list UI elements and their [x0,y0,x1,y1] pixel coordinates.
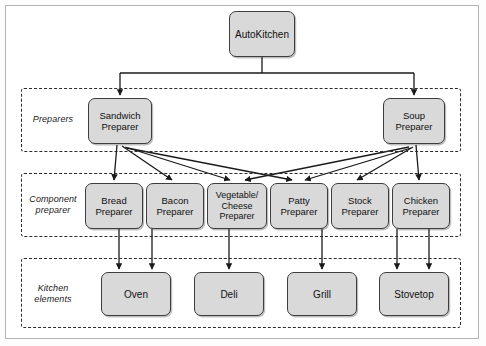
node-soup-preparer[interactable]: Soup Preparer [383,98,445,144]
band-label-line-1: Component [20,194,86,205]
node-autokitchen[interactable]: AutoKitchen [229,11,295,57]
node-patty-preparer[interactable]: Patty Preparer [270,183,328,229]
band-label-component-preparer: Component preparer [20,194,86,216]
node-grill[interactable]: Grill [287,272,357,316]
node-deli[interactable]: Deli [194,272,264,316]
diagram-canvas: Preparers Component preparer Kitchen ele… [0,0,486,346]
node-vegetable-cheese-preparer[interactable]: Vegetable/ Cheese Preparer [207,183,267,229]
band-label-preparers: Preparers [24,114,82,125]
node-stovetop[interactable]: Stovetop [379,272,449,316]
node-oven[interactable]: Oven [101,272,171,316]
node-sandwich-preparer[interactable]: Sandwich Preparer [88,98,152,144]
band-label-line-2: elements [22,294,84,305]
node-stock-preparer[interactable]: Stock Preparer [331,183,389,229]
band-label-line-2: preparer [20,205,86,216]
band-label-kitchen-elements: Kitchen elements [22,283,84,305]
node-chicken-preparer[interactable]: Chicken Preparer [392,183,450,229]
band-label-line-1: Kitchen [22,283,84,294]
node-bread-preparer[interactable]: Bread Preparer [85,183,143,229]
node-bacon-preparer[interactable]: Bacon Preparer [146,183,204,229]
